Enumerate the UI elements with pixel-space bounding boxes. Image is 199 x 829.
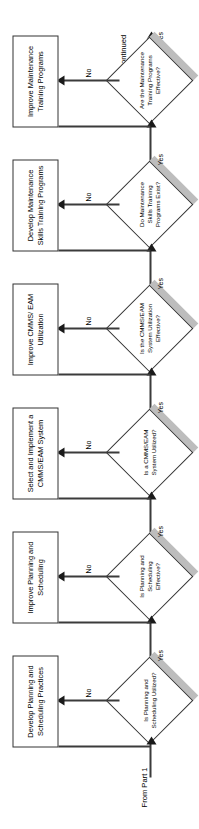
action-label: Improve Planning and Scheduling — [25, 535, 45, 619]
decision-planning-utilized[interactable]: Is Planning and Scheduling Utilized? — [118, 669, 180, 731]
action-improve-cmms-utilization[interactable]: Improve CMMS/ EAM Utilization — [12, 283, 58, 375]
no-label-6: No — [84, 68, 91, 77]
action-develop-planning-practices[interactable]: Develop Planning and Scheduling Practice… — [12, 655, 58, 747]
decision-label: Are the Maintenance Training Programs Ef… — [118, 49, 180, 111]
decision-label: Is the CMMS/EAM System Utilization Effec… — [118, 297, 180, 359]
no-label-4: No — [84, 316, 91, 325]
no-label-5: No — [84, 192, 91, 201]
decision-training-effective[interactable]: Are the Maintenance Training Programs Ef… — [118, 49, 180, 111]
decision-planning-effective[interactable]: Is Planning and Scheduling Effective? — [118, 545, 180, 607]
no-line-vertical-5 — [60, 203, 119, 205]
action-develop-skills-training[interactable]: Develop Maintenance Skills Training Prog… — [12, 159, 58, 251]
decision-label: Is a CMMS/EAM System Utilized? — [118, 421, 180, 483]
flowchart-canvas: From Part 1 Continued Yes Is Planning an… — [0, 0, 196, 829]
return-line-vertical-3 — [58, 497, 150, 499]
action-improve-maintenance-training[interactable]: Improve Maintenance Training Programs — [12, 35, 58, 127]
return-line-vertical-2 — [58, 621, 150, 623]
action-label: Improve Maintenance Training Programs — [25, 39, 45, 123]
no-line-vertical-4 — [60, 327, 119, 329]
yes-label-5: Yes — [156, 154, 163, 165]
return-line-vertical-1 — [58, 745, 150, 747]
yes-label-2: Yes — [156, 526, 163, 537]
action-select-implement-cmms[interactable]: Select and Implement a CMMS/EAM System — [12, 407, 58, 499]
return-line-vertical-5 — [58, 249, 150, 251]
yes-label-4: Yes — [156, 278, 163, 289]
no-label-1: No — [84, 688, 91, 697]
no-line-vertical-6 — [60, 79, 119, 81]
no-line-vertical-3 — [60, 451, 119, 453]
no-label-2: No — [84, 564, 91, 573]
action-label: Improve CMMS/ EAM Utilization — [25, 287, 45, 371]
decision-label: Is Planning and Scheduling Utilized? — [118, 669, 180, 731]
decision-training-exists[interactable]: Do Maintenance Skills Training Programs … — [118, 173, 180, 235]
no-label-3: No — [84, 440, 91, 449]
entry-label: From Part 1 — [139, 767, 148, 807]
action-label: Develop Planning and Scheduling Practice… — [25, 659, 45, 743]
flowchart-frame: From Part 1 Continued Yes Is Planning an… — [0, 0, 196, 829]
decision-cmms-effective[interactable]: Is the CMMS/EAM System Utilization Effec… — [118, 297, 180, 359]
return-line-vertical-6 — [58, 125, 150, 127]
decision-cmms-utilized[interactable]: Is a CMMS/EAM System Utilized? — [118, 421, 180, 483]
action-improve-planning-scheduling[interactable]: Improve Planning and Scheduling — [12, 531, 58, 623]
yes-label-3: Yes — [156, 402, 163, 413]
yes-label-1: Yes — [156, 650, 163, 661]
return-line-vertical-4 — [58, 373, 150, 375]
inbound-arrow-icon-1 — [146, 736, 156, 744]
no-line-vertical-1 — [60, 699, 119, 701]
action-label: Select and Implement a CMMS/EAM System — [25, 411, 45, 495]
action-label: Develop Maintenance Skills Training Prog… — [25, 163, 45, 247]
flowchart-stage: From Part 1 Continued Yes Is Planning an… — [0, 0, 196, 829]
decision-label: Is Planning and Scheduling Effective? — [118, 545, 180, 607]
decision-label: Do Maintenance Skills Training Programs … — [118, 173, 180, 235]
no-line-vertical-2 — [60, 575, 119, 577]
